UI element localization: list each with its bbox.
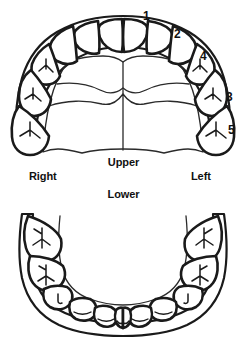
tooth-number-1: 1: [143, 10, 150, 22]
tooth-number-5: 5: [228, 124, 235, 136]
tooth-lower-left-canine: [150, 298, 177, 321]
dental-arch-figure: 1 2 4 3 5 Upper Lower Right Left: [0, 0, 247, 345]
upper-arch-label: Upper: [0, 157, 247, 168]
right-side-label: Right: [29, 171, 57, 182]
lower-arch-group: [19, 214, 226, 336]
tooth-lower-right-canine: [69, 298, 96, 321]
tooth-lower-left-central-incisor: [123, 308, 131, 328]
tooth-number-3: 3: [226, 91, 233, 103]
lower-arch-label: Lower: [0, 189, 247, 200]
left-side-label: Left: [191, 171, 211, 182]
upper-arch-group: [12, 16, 234, 155]
tooth-number-4: 4: [200, 50, 207, 62]
lower-inner-contour: [59, 216, 188, 305]
tooth-number-2: 2: [174, 28, 181, 40]
